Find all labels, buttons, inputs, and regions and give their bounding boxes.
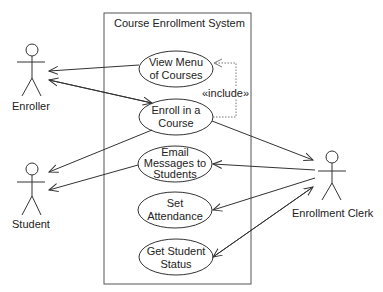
svg-text:Status: Status <box>160 258 192 270</box>
actor-enroller[interactable] <box>17 44 45 96</box>
actor-enroller-label: Enroller <box>12 100 50 112</box>
assoc-clerk-attendance <box>213 178 315 210</box>
use-case-view-menu[interactable]: View Menu of Courses <box>139 51 213 87</box>
svg-text:Set: Set <box>167 197 184 209</box>
assoc-clerk-email <box>213 164 315 170</box>
actor-enrollment-clerk-label: Enrollment Clerk <box>292 207 374 219</box>
assoc-enroller-enroll-b <box>49 80 152 103</box>
actor-enrollment-clerk[interactable] <box>318 151 346 200</box>
svg-text:Enroll in a: Enroll in a <box>152 104 202 116</box>
assoc-email-student <box>49 165 138 190</box>
include-arrowhead <box>214 59 222 67</box>
svg-text:Course: Course <box>158 117 193 129</box>
svg-text:Attendance: Attendance <box>147 210 203 222</box>
use-case-diagram: Course Enrollment System Enroller Studen… <box>0 0 383 292</box>
svg-text:Get Student: Get Student <box>147 245 206 257</box>
svg-text:Students: Students <box>153 168 197 180</box>
use-case-set-attendance[interactable]: Set Attendance <box>138 192 212 228</box>
system-title: Course Enrollment System <box>114 17 245 29</box>
use-case-email[interactable]: Email Messages to Students <box>138 146 212 182</box>
assoc-clerk-status-b <box>213 187 313 257</box>
use-case-enroll[interactable]: Enroll in a Course <box>139 99 213 135</box>
svg-text:View Menu: View Menu <box>149 56 203 68</box>
use-case-get-student-status[interactable]: Get Student Status <box>139 239 213 275</box>
assoc-enroll-clerk <box>212 121 313 160</box>
svg-text:of Courses: of Courses <box>149 69 203 81</box>
assoc-enroller-view-menu <box>49 65 139 71</box>
include-label: «include» <box>202 87 249 99</box>
actor-student[interactable] <box>17 163 45 215</box>
actor-student-label: Student <box>12 218 50 230</box>
